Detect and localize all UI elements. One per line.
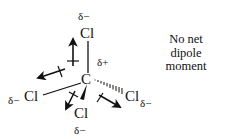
partial-charge-cl-left: δ− [8, 94, 19, 106]
atom-cl-bottom: Cl [74, 105, 88, 121]
caption-line-3: moment [150, 60, 222, 74]
dipole-arrow-left [38, 66, 65, 78]
partial-charge-cl-right: δ− [140, 97, 151, 109]
caption-line-1: No net [150, 33, 222, 47]
partial-charge-carbon: δ+ [97, 56, 108, 68]
atom-cl-right: Cl [125, 88, 139, 104]
atom-cl-top: Cl [80, 25, 94, 41]
atom-cl-left: Cl [24, 88, 38, 104]
atom-carbon: C [81, 71, 91, 87]
caption-no-net-dipole: No net dipole moment [150, 33, 222, 74]
ccl4-dipole-figure: C δ+ Cl δ− Cl δ− Cl δ− Cl δ− No net dipo… [0, 0, 227, 139]
bond-c-cl-left [43, 83, 81, 95]
caption-line-2: dipole [150, 47, 222, 61]
partial-charge-cl-top: δ− [78, 10, 89, 22]
dipole-arrow-right [97, 93, 120, 107]
partial-charge-cl-bottom: δ− [74, 124, 85, 136]
bond-c-cl-right-hashed [95, 80, 122, 95]
dipole-arrow-top [67, 39, 79, 66]
